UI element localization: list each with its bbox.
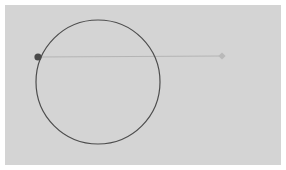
- anchor-point-marker[interactable]: [34, 53, 41, 60]
- main-circle: [36, 20, 160, 144]
- endpoint-diamond-marker[interactable]: [218, 52, 225, 59]
- connector-line: [38, 56, 222, 57]
- figure-root: A dark outlined circle on a light gray p…: [0, 0, 286, 170]
- shape-layer: [36, 20, 222, 144]
- figure-canvas: [0, 0, 286, 170]
